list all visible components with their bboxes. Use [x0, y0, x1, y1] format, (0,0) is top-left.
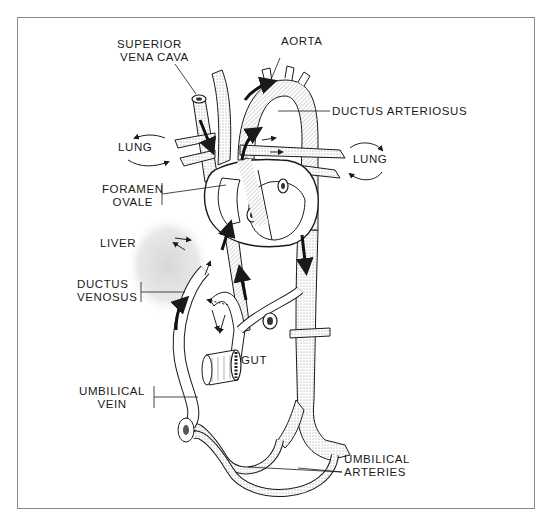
- label-foramen-ovale: FORAMEN OVALE: [102, 183, 164, 209]
- label-aorta: AORTA: [281, 35, 323, 48]
- label-venosus: VENOSUS: [77, 291, 137, 304]
- heart: [205, 159, 319, 246]
- label-ductus: DUCTUS: [77, 278, 137, 291]
- label-umbilical: UMBILICAL: [79, 385, 145, 398]
- label-vena-cava: VENA CAVA: [110, 51, 189, 64]
- pulmonary-artery-right: [240, 145, 345, 158]
- lung-arrow-right-out: [350, 143, 382, 150]
- label-arteries: ARTERIES: [344, 466, 410, 479]
- label-vein: VEIN: [79, 398, 145, 411]
- label-ovale: OVALE: [102, 196, 164, 209]
- gut-drawing: [202, 350, 241, 385]
- liver: [126, 215, 210, 315]
- label-ductus-arteriosus: DUCTUS ARTERIOSUS: [332, 105, 467, 118]
- lung-arrow-left-in: [128, 160, 168, 166]
- label-ductus-venosus: DUCTUS VENOSUS: [77, 278, 137, 304]
- label-gut: GUT: [241, 354, 267, 367]
- label-lung-right: LUNG: [353, 153, 387, 166]
- lung-arrow-right-in: [350, 172, 382, 180]
- label-superior: SUPERIOR: [110, 38, 189, 51]
- label-umbilical-2: UMBILICAL: [344, 453, 410, 466]
- renal-branch: [290, 328, 330, 338]
- lung-arrow-left-out: [135, 135, 165, 138]
- fetal-circulation-drawing: [0, 0, 549, 525]
- label-umbilical-vein: UMBILICAL VEIN: [79, 385, 145, 411]
- label-liver: LIVER: [100, 237, 136, 250]
- label-foramen: FORAMEN: [102, 183, 164, 196]
- label-lung-left: LUNG: [118, 141, 152, 154]
- label-superior-vena-cava: SUPERIOR VENA CAVA: [110, 38, 189, 64]
- label-umbilical-arteries: UMBILICAL ARTERIES: [344, 453, 410, 479]
